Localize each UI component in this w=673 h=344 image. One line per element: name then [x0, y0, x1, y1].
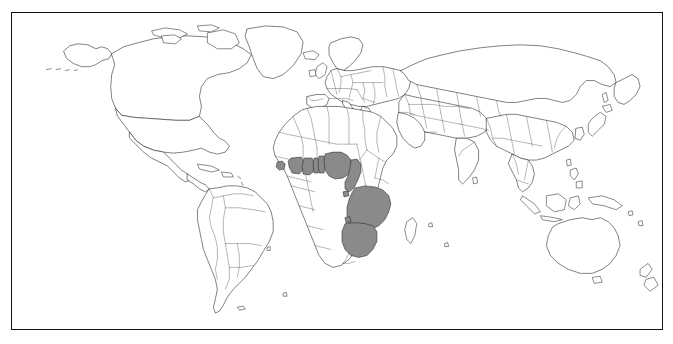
country-liberia-highlighted[interactable]: [276, 161, 285, 170]
islands-atlantic-misc: [267, 247, 287, 297]
country-new-zealand[interactable]: [640, 263, 658, 291]
country-madagascar[interactable]: [405, 218, 417, 244]
country-japan[interactable]: [588, 112, 606, 136]
islands-aleutian: [46, 69, 78, 71]
country-equatorial-guinea-highlighted[interactable]: [343, 191, 349, 197]
continent-oceania: [546, 211, 658, 291]
world-map-figure: [0, 0, 673, 344]
region-europe-mainland[interactable]: [325, 67, 411, 107]
country-alaska[interactable]: [64, 44, 112, 67]
island-baffin: [207, 30, 239, 49]
island-java: [540, 216, 562, 222]
island-hokkaido: [602, 104, 612, 112]
region-korea[interactable]: [575, 127, 584, 140]
region-scandinavia[interactable]: [329, 37, 363, 71]
country-india[interactable]: [455, 138, 479, 184]
islands-indian-ocean-misc: [429, 223, 449, 247]
country-iceland[interactable]: [303, 51, 319, 60]
island-taiwan: [566, 159, 571, 166]
country-ghana-highlighted[interactable]: [302, 158, 314, 175]
continent-europe: [307, 37, 411, 116]
country-greenland[interactable]: [245, 26, 303, 79]
islands-philippines: [570, 168, 582, 188]
country-nigeria-highlighted[interactable]: [324, 152, 352, 179]
country-united-kingdom[interactable]: [315, 63, 327, 79]
country-australia[interactable]: [546, 218, 620, 274]
islands-sakhalin-kuril: [602, 92, 608, 102]
island-sulawesi: [568, 196, 580, 210]
region-russian-far-east[interactable]: [614, 75, 640, 105]
region-africa-mainland[interactable]: [273, 106, 397, 267]
region-northern-asia[interactable]: [401, 45, 616, 103]
islands-falkland: [237, 306, 245, 310]
territory-cabinda-highlighted[interactable]: [345, 217, 351, 223]
region-south-america[interactable]: [197, 186, 273, 313]
continent-south-america: [197, 186, 273, 313]
islands-pacific-melanesia: [628, 211, 643, 226]
island-sri-lanka: [473, 177, 478, 184]
region-central-america[interactable]: [187, 174, 209, 192]
continent-africa: [273, 106, 417, 267]
map-frame: [11, 12, 663, 330]
world-map-svg[interactable]: [12, 13, 662, 329]
island-ellesmere: [197, 25, 219, 32]
continent-asia: [397, 45, 640, 222]
island-tasmania: [592, 276, 602, 283]
island-borneo: [546, 194, 566, 212]
island-cuba: [197, 164, 219, 172]
country-ireland[interactable]: [309, 70, 316, 77]
country-benin-highlighted[interactable]: [318, 156, 325, 173]
island-new-guinea: [588, 196, 622, 210]
island-sumatra: [520, 196, 540, 214]
island-hispaniola: [221, 172, 233, 177]
